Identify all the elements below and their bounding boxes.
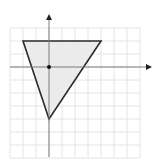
origin-point xyxy=(47,65,51,69)
coordinate-plane xyxy=(0,0,156,167)
x-axis-arrow-icon xyxy=(146,64,152,70)
y-axis-arrow-icon xyxy=(46,14,52,20)
